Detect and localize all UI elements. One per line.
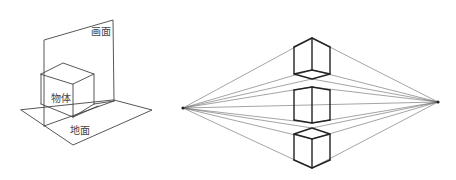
ground-plane-label: 地面 bbox=[70, 126, 90, 136]
convergence-line bbox=[312, 102, 438, 139]
convergence-line bbox=[312, 102, 438, 168]
picture-plane-label: 画面 bbox=[91, 27, 111, 37]
object-label: 物体 bbox=[51, 94, 71, 104]
cube-below-horizon bbox=[294, 128, 330, 168]
cube-above-horizon bbox=[294, 38, 330, 79]
right-vanishing-point bbox=[436, 100, 439, 103]
convergence-line bbox=[183, 70, 312, 108]
convergence-line bbox=[183, 108, 312, 139]
convergence-line bbox=[183, 108, 312, 123]
horizon-line bbox=[183, 102, 438, 108]
left-vanishing-point bbox=[181, 106, 184, 109]
convergence-line bbox=[183, 108, 312, 128]
convergence-line bbox=[183, 79, 312, 108]
convergence-line bbox=[312, 38, 438, 102]
convergence-line bbox=[312, 87, 438, 102]
convergence-line bbox=[183, 108, 312, 168]
convergence-line bbox=[312, 70, 438, 102]
right-figure bbox=[0, 0, 456, 180]
convergence-line bbox=[312, 102, 438, 128]
diagram-canvas: 画面 物体 地面 bbox=[0, 0, 456, 180]
convergence-line bbox=[312, 102, 438, 123]
convergence-line bbox=[312, 79, 438, 102]
